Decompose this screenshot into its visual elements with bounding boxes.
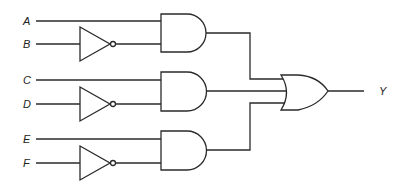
- wire-and3-to-or: [207, 103, 287, 150]
- inverter-bubble-1: [111, 42, 116, 47]
- not-gate-3-icon: [80, 146, 110, 180]
- output-label-y: Y: [379, 85, 387, 97]
- not-gate-1-icon: [80, 27, 110, 61]
- logic-circuit-diagram: A B C D E F Y: [0, 0, 406, 192]
- section-cd: [36, 72, 207, 121]
- input-label-f: F: [23, 157, 31, 169]
- section-ab: [36, 14, 206, 61]
- and-gate-1-icon: [161, 14, 206, 52]
- or-gate-icon: [281, 75, 328, 110]
- input-label-a: A: [22, 15, 30, 27]
- and-gate-3-icon: [161, 131, 207, 170]
- inverter-bubble-3: [111, 161, 116, 166]
- not-gate-2-icon: [80, 87, 110, 121]
- inverter-bubble-2: [111, 102, 116, 107]
- input-label-d: D: [23, 98, 31, 110]
- input-label-e: E: [23, 133, 31, 145]
- wire-and1-to-or: [206, 33, 286, 79]
- section-ef: [36, 131, 207, 180]
- and-gate-2-icon: [161, 72, 207, 111]
- input-label-c: C: [23, 74, 31, 86]
- input-label-b: B: [23, 38, 30, 50]
